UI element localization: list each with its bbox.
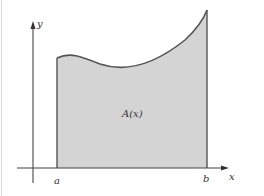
y-axis-label: y [36,18,43,29]
x-axis-arrow-icon [221,166,229,171]
shaded-region [57,10,207,168]
area-under-curve-diagram: y x a b A(x) [0,0,264,196]
left-bound-label: a [54,175,60,186]
region-label: A(x) [121,108,143,119]
y-axis-arrow-icon [31,21,36,29]
x-axis-label: x [229,171,235,182]
right-bound-label: b [203,173,209,184]
